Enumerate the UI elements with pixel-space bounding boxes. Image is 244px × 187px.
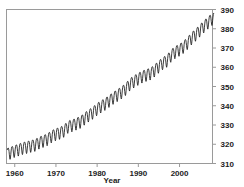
y-axis-tick-group <box>213 10 217 164</box>
y-axis-labels: 310320330340350360370380390 <box>221 6 235 169</box>
y-axis-tick-label: 340 <box>221 102 235 111</box>
y-axis-tick-label: 380 <box>221 25 235 34</box>
y-axis-tick-label: 330 <box>221 121 235 130</box>
y-axis-tick-label: 390 <box>221 6 235 15</box>
x-axis-tick-label: 2000 <box>171 169 189 178</box>
y-axis-tick-label: 320 <box>221 140 235 149</box>
x-axis-labels: 19601970198019902000 <box>6 169 189 178</box>
x-axis-tick-group <box>15 164 180 168</box>
chart-canvas: 310320330340350360370380390 196019701980… <box>0 0 244 187</box>
y-axis-tick-label: 360 <box>221 63 235 72</box>
x-axis-tick-label: 1960 <box>6 169 24 178</box>
y-axis-tick-label: 350 <box>221 83 235 92</box>
x-axis-tick-label: 1990 <box>129 169 147 178</box>
x-axis-tick-label: 1970 <box>47 169 65 178</box>
co2-line-chart: 310320330340350360370380390 196019701980… <box>0 0 244 187</box>
y-axis-tick-label: 310 <box>221 160 235 169</box>
y-axis-tick-label: 370 <box>221 44 235 53</box>
x-axis-title: Year <box>104 176 121 185</box>
